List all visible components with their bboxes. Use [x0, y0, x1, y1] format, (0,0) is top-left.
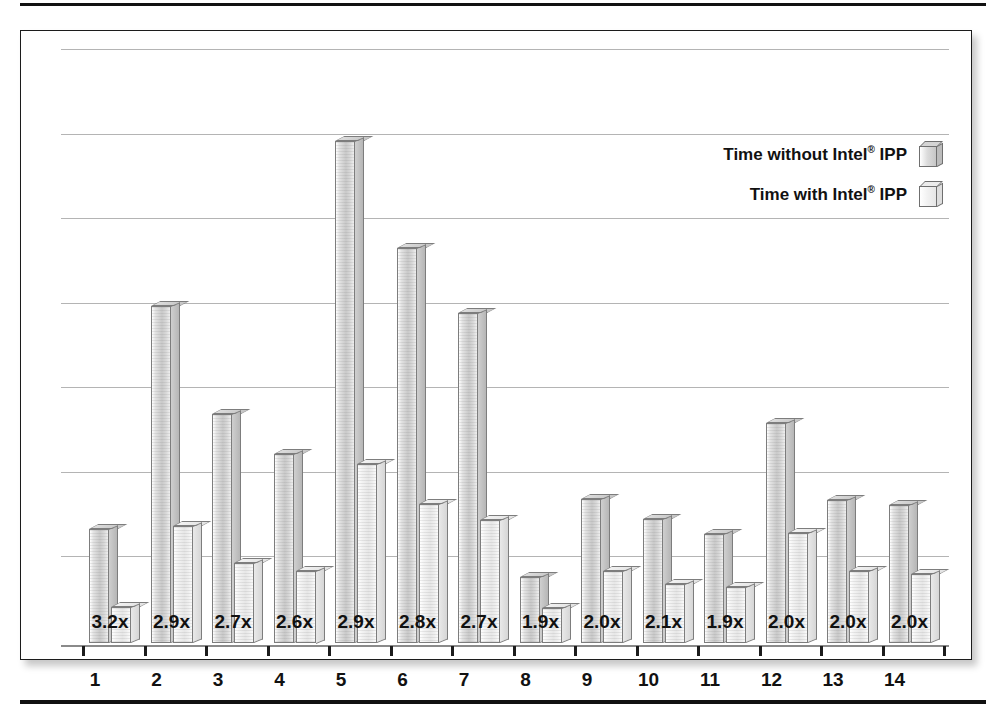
x-axis-tick	[820, 646, 823, 656]
x-axis-tick-end	[943, 646, 946, 656]
bar-front-face	[212, 414, 232, 643]
legend-label: Time without Intel® IPP	[723, 144, 907, 165]
data-label: 2.1x	[637, 611, 691, 633]
x-axis-tick	[328, 646, 331, 656]
x-axis-tick	[574, 646, 577, 656]
x-axis-category-label: 3	[196, 669, 240, 691]
bar-front-face	[151, 306, 171, 643]
data-label: 2.0x	[883, 611, 937, 633]
bar-time-without-ipp	[766, 423, 786, 643]
data-label: 2.0x	[821, 611, 875, 633]
legend-label: Time with Intel® IPP	[750, 184, 907, 205]
data-label: 2.7x	[452, 611, 506, 633]
bar-series-container	[61, 41, 949, 659]
swatch-front-face	[919, 186, 937, 207]
bar-time-without-ipp	[458, 313, 478, 643]
x-axis-tick	[636, 646, 639, 656]
x-axis-category-label: 14	[873, 669, 917, 691]
data-label: 3.2x	[83, 611, 137, 633]
bar-front-face	[397, 248, 417, 643]
bar-front-face	[335, 141, 355, 643]
bar-time-without-ipp	[212, 414, 232, 643]
x-axis-tick	[451, 646, 454, 656]
x-axis-tick	[759, 646, 762, 656]
x-axis-category-label: 6	[381, 669, 425, 691]
plot-area: 3.2x2.9x2.7x2.6x2.9x2.8x2.7x1.9x2.0x2.1x…	[61, 41, 949, 659]
data-label: 2.6x	[268, 611, 322, 633]
x-axis-tick	[513, 646, 516, 656]
data-label: 2.0x	[575, 611, 629, 633]
x-axis-tick	[82, 646, 85, 656]
x-axis-category-label: 12	[750, 669, 794, 691]
bar-time-without-ipp	[335, 141, 355, 643]
x-axis-category-label: 10	[627, 669, 671, 691]
chart-frame: 3.2x2.9x2.7x2.6x2.9x2.8x2.7x1.9x2.0x2.1x…	[20, 30, 972, 660]
bar-front-face	[458, 313, 478, 643]
x-axis-category-label: 1	[73, 669, 117, 691]
horizontal-rule-bottom	[20, 700, 986, 704]
bar-swatch-light-icon	[919, 181, 943, 207]
x-axis-category-label: 9	[565, 669, 609, 691]
bar-front-face	[766, 423, 786, 643]
swatch-side-face	[937, 183, 943, 207]
x-axis-tick	[144, 646, 147, 656]
swatch-side-face	[937, 143, 943, 167]
swatch-front-face	[919, 146, 937, 167]
legend-entry: Time without Intel® IPP	[723, 141, 943, 167]
page-root: 3.2x2.9x2.7x2.6x2.9x2.8x2.7x1.9x2.0x2.1x…	[0, 0, 1006, 717]
x-axis-tick	[267, 646, 270, 656]
data-label: 2.9x	[329, 611, 383, 633]
x-axis-tick	[697, 646, 700, 656]
x-axis-category-label: 2	[135, 669, 179, 691]
x-axis-tick	[390, 646, 393, 656]
x-axis-tick	[205, 646, 208, 656]
x-axis-category-label: 5	[319, 669, 363, 691]
bar-swatch-dark-icon	[919, 141, 943, 167]
horizontal-rule-top	[20, 3, 986, 6]
x-axis-category-label: 13	[811, 669, 855, 691]
data-label: 2.9x	[145, 611, 199, 633]
data-label: 2.7x	[206, 611, 260, 633]
data-label: 1.9x	[514, 611, 568, 633]
x-axis-category-label: 4	[258, 669, 302, 691]
bar-time-without-ipp	[151, 306, 171, 643]
x-axis-tick	[882, 646, 885, 656]
x-axis-category-label: 7	[442, 669, 486, 691]
x-axis-category-label: 11	[688, 669, 732, 691]
bar-time-without-ipp	[397, 248, 417, 643]
legend-entry: Time with Intel® IPP	[750, 181, 943, 207]
x-axis-category-label: 8	[504, 669, 548, 691]
data-label: 1.9x	[698, 611, 752, 633]
data-label: 2.0x	[760, 611, 814, 633]
data-label: 2.8x	[391, 611, 445, 633]
